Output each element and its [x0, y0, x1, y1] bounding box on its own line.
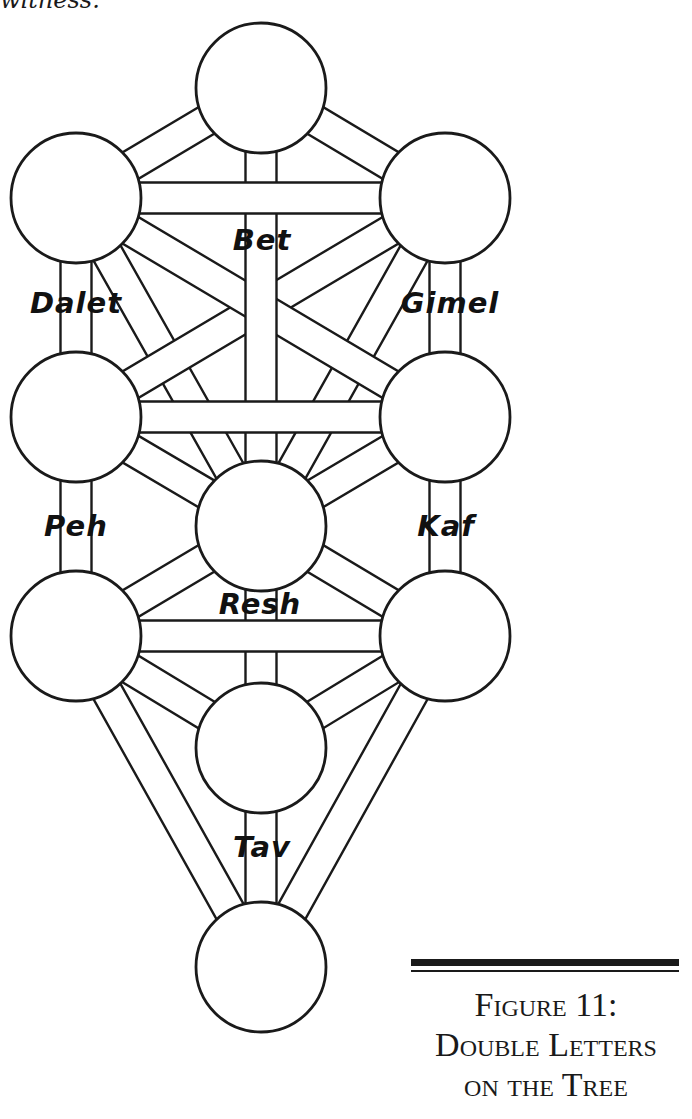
caption-rule-thick	[411, 959, 679, 966]
caption-rule-thin	[411, 970, 679, 972]
sephirah-circle-s6	[196, 461, 326, 591]
sephirah-circle-s4	[380, 352, 510, 482]
letter-label-kaf: Kaf	[417, 512, 475, 541]
sephirah-circle-s3	[11, 133, 141, 263]
sephirah-circle-s9	[196, 683, 326, 813]
tree-of-life-diagram	[0, 0, 692, 1119]
letter-label-resh: Resh	[219, 590, 301, 619]
letter-label-tav: Tav	[233, 833, 291, 862]
caption-line-3: on the Tree	[400, 1065, 692, 1105]
letter-label-bet: Bet	[233, 226, 292, 255]
sephirah-circle-s8	[11, 571, 141, 701]
sephirah-circle-s7	[380, 571, 510, 701]
caption-line-2: Double Letters	[400, 1025, 692, 1065]
caption-line-1: Figure 11:	[400, 985, 692, 1025]
sephirah-circle-s5	[11, 352, 141, 482]
sephirah-circle-s2	[380, 133, 510, 263]
sephirah-circle-s10	[196, 902, 326, 1032]
letter-label-dalet: Dalet	[30, 289, 122, 318]
letter-label-gimel: Gimel	[401, 289, 500, 318]
sephirah-circle-s1	[196, 23, 326, 153]
figure-caption: Figure 11: Double Letters on the Tree	[400, 985, 692, 1105]
letter-label-peh: Peh	[44, 512, 108, 541]
